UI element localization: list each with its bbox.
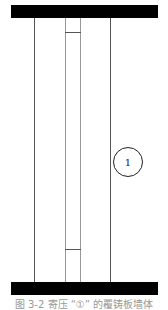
core-right-edge [80,18,81,282]
bottom-block-line [65,249,81,250]
core-left-edge [65,18,66,282]
marker-label: 1 [125,157,131,168]
bottom-slab [11,282,158,295]
wall-right-edge [110,18,111,282]
top-slab [11,5,158,18]
wall-left-edge [34,18,35,282]
top-block-line [65,32,81,33]
marker-circle: 1 [113,147,143,177]
figure-caption: 图 3-2 寄压 “①” 的覆铸板墙体 [0,296,168,310]
